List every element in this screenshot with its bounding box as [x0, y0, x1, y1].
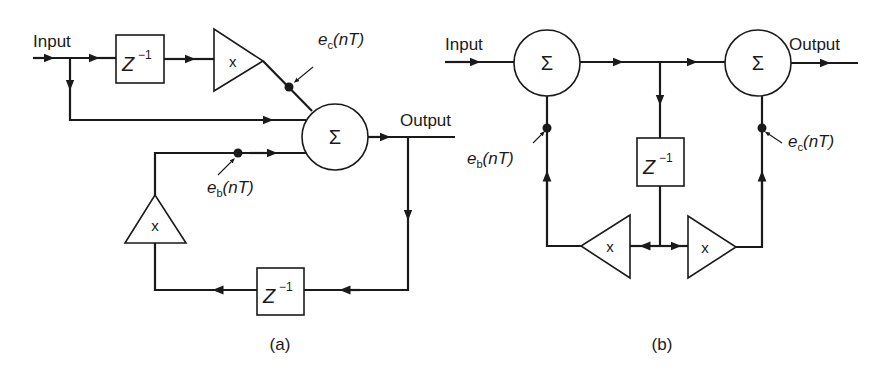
pointer-arrow [296, 67, 313, 81]
multiplier-right-b [688, 216, 736, 278]
input-label-b: Input [445, 35, 483, 54]
output-label-a: Output [400, 111, 451, 130]
node-ec-b [758, 124, 767, 133]
error-label-eb-a: eb(nT) [207, 178, 254, 199]
svg-text:Σ: Σ [329, 126, 341, 148]
svg-text:Z: Z [262, 285, 276, 307]
panel-b: Input Σ Σ Output Z −1 x x [445, 30, 858, 354]
svg-text:x: x [151, 217, 159, 234]
multiplier-forward-a [214, 29, 263, 91]
output-label-b: Output [789, 35, 840, 54]
caption-b: (b) [652, 335, 673, 354]
svg-text:x: x [701, 239, 709, 256]
node-eb-b [543, 124, 552, 133]
delay-label: Z [121, 53, 135, 75]
svg-text:Σ: Σ [541, 52, 553, 74]
filter-block-diagrams: Input Z −1 x ec(nT) Σ Output [0, 0, 886, 376]
caption-a: (a) [270, 335, 291, 354]
node-eb-a [234, 149, 243, 158]
error-label-ec-a: ec(nT) [318, 30, 364, 51]
panel-a: Input Z −1 x ec(nT) Σ Output [33, 29, 455, 354]
svg-text:−1: −1 [279, 280, 293, 294]
svg-text:x: x [229, 53, 237, 70]
svg-text:Σ: Σ [752, 52, 764, 74]
svg-text:Z: Z [642, 156, 656, 178]
svg-text:−1: −1 [138, 48, 152, 62]
input-label-a: Input [33, 32, 71, 51]
error-label-ec-b: ec(nT) [788, 132, 834, 153]
node-ec-a [285, 83, 294, 92]
svg-text:x: x [606, 238, 614, 255]
svg-text:−1: −1 [659, 151, 673, 165]
error-label-eb-b: eb(nT) [467, 149, 514, 170]
